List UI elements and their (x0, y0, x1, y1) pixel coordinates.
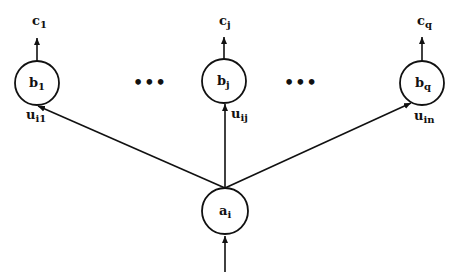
ellipsis-right: ••• (284, 75, 318, 91)
label-u-i1: ui1 (26, 108, 46, 124)
label-u-ij-sub: ij (240, 112, 247, 123)
label-cq: cq (417, 14, 432, 30)
label-bj-base: b (217, 73, 226, 88)
neural-network-diagram: c1 cj cq b1 bj bq ai ui1 uij uin ••• ••• (0, 0, 453, 272)
label-bj: bj (217, 74, 230, 90)
edge-ai-b1 (38, 106, 225, 188)
label-bj-sub: j (226, 79, 230, 90)
label-cq-sub: q (425, 19, 432, 30)
label-u-ij: uij (231, 107, 248, 123)
label-cj-sub: j (227, 19, 231, 30)
label-ai: ai (219, 204, 231, 220)
diagram-graphics (0, 0, 453, 272)
label-cj: cj (219, 14, 231, 30)
label-c1-sub: 1 (40, 19, 47, 30)
label-cj-base: c (219, 13, 227, 28)
label-u-in-sub: in (423, 114, 434, 125)
label-bq-sub: q (424, 81, 431, 92)
label-bq: bq (415, 76, 431, 92)
label-u-in: uin (414, 109, 435, 125)
label-b1-base: b (29, 75, 38, 90)
label-c1: c1 (32, 14, 47, 30)
label-u-i1-sub: i1 (35, 113, 46, 124)
label-b1: b1 (29, 76, 45, 92)
label-c1-base: c (32, 13, 40, 28)
label-bq-base: b (415, 75, 424, 90)
label-cq-base: c (417, 13, 425, 28)
ellipsis-left: ••• (133, 75, 167, 91)
edge-ai-bq (225, 103, 411, 188)
label-ai-sub: i (227, 209, 231, 220)
label-b1-sub: 1 (38, 81, 45, 92)
